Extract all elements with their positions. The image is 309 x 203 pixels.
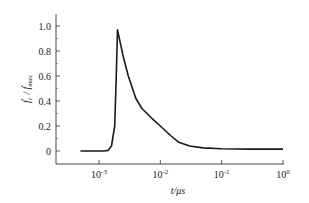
- y-tick-label: 0.8: [39, 46, 52, 57]
- x-tick-label: 10-1: [214, 168, 230, 180]
- y-axis: 00.20.40.60.81.0: [39, 14, 61, 164]
- x-tick-label: 10-2: [152, 168, 168, 180]
- x-tick-label: 100: [276, 168, 290, 180]
- y-tick-label: 0.4: [39, 96, 52, 107]
- y-axis-label: ḟr / ḟmax: [21, 74, 34, 103]
- data-line: [81, 30, 284, 151]
- y-tick-label: 1.0: [39, 21, 52, 32]
- x-axis: 10-310-210-1100: [56, 160, 290, 180]
- y-tick-label: 0.6: [39, 71, 52, 82]
- x-axis-label: t/μs: [171, 185, 186, 196]
- y-tick-label: 0: [46, 146, 51, 157]
- x-tick-label: 10-3: [91, 168, 107, 180]
- y-tick-label: 0.2: [39, 121, 52, 132]
- svg-text:ḟr / ḟmax: ḟr / ḟmax: [21, 74, 34, 103]
- line-chart: 00.20.40.60.81.0 10-310-210-1100 t/μs ḟr…: [0, 0, 309, 203]
